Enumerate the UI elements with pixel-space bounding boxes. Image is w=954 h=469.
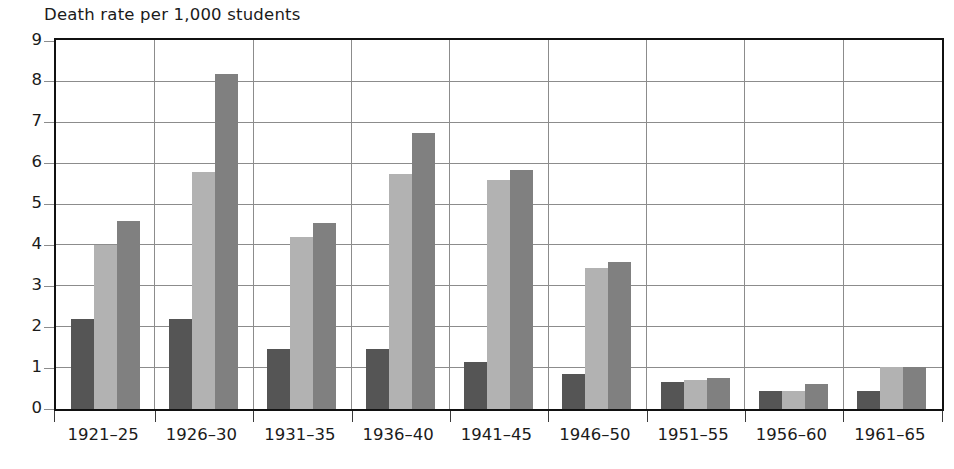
gridline-horizontal: [56, 163, 942, 164]
bar: [389, 174, 412, 409]
y-tick-mark: [44, 41, 54, 42]
y-tick-label: 7: [8, 113, 42, 130]
bar: [562, 374, 585, 409]
y-tick-mark: [44, 204, 54, 205]
x-tick-mark: [647, 411, 648, 422]
gridline-vertical: [548, 40, 549, 409]
x-tick-label: 1931–35: [251, 425, 349, 444]
bar: [510, 170, 533, 409]
x-tick-mark: [352, 411, 353, 422]
y-tick-mark: [44, 81, 54, 82]
bar: [684, 380, 707, 409]
bar: [366, 349, 389, 410]
y-tick-label: 0: [8, 400, 42, 417]
y-tick-label: 2: [8, 318, 42, 335]
x-tick-label: 1951–55: [644, 425, 742, 444]
bar: [169, 319, 192, 409]
y-tick-mark: [44, 245, 54, 246]
y-tick-label: 9: [8, 32, 42, 49]
chart-title: Death rate per 1,000 students: [44, 5, 301, 24]
gridline-vertical: [253, 40, 254, 409]
gridline-vertical: [449, 40, 450, 409]
y-tick-label: 3: [8, 277, 42, 294]
bar: [782, 391, 805, 409]
bar: [290, 237, 313, 409]
x-tick-mark: [253, 411, 254, 422]
bar: [192, 172, 215, 409]
gridline-vertical: [154, 40, 155, 409]
x-tick-label: 1941–45: [447, 425, 545, 444]
x-tick-label: 1961–65: [841, 425, 939, 444]
y-tick-mark: [44, 122, 54, 123]
x-tick-mark: [843, 411, 844, 422]
y-tick-mark: [44, 163, 54, 164]
bar: [464, 362, 487, 409]
bar: [94, 245, 117, 409]
bar: [759, 391, 782, 409]
bar: [805, 384, 828, 409]
bar: [903, 367, 926, 409]
x-tick-mark: [155, 411, 156, 422]
bar: [857, 391, 880, 409]
bar: [585, 268, 608, 409]
x-tick-label: 1956–60: [742, 425, 840, 444]
bar: [487, 180, 510, 409]
bar: [661, 382, 684, 409]
x-axis-ticks: [54, 411, 944, 423]
x-tick-label: 1921–25: [54, 425, 152, 444]
bar: [608, 262, 631, 409]
bar: [313, 223, 336, 409]
x-axis-labels: 1921–251926–301931–351936–401941–451946–…: [54, 425, 944, 455]
plot-area: [54, 38, 944, 411]
x-tick-label: 1926–30: [152, 425, 250, 444]
x-tick-label: 1936–40: [349, 425, 447, 444]
gridline-vertical: [646, 40, 647, 409]
x-tick-mark: [450, 411, 451, 422]
x-tick-mark: [54, 411, 55, 422]
bar: [71, 319, 94, 409]
bar-chart-figure: Death rate per 1,000 students 0123456789…: [0, 0, 954, 469]
y-tick-label: 4: [8, 236, 42, 253]
gridline-vertical: [744, 40, 745, 409]
x-tick-label: 1946–50: [546, 425, 644, 444]
gridline-vertical: [843, 40, 844, 409]
bar: [880, 367, 903, 409]
x-tick-mark: [745, 411, 746, 422]
y-tick-label: 6: [8, 154, 42, 171]
y-tick-label: 8: [8, 72, 42, 89]
gridline-horizontal: [56, 81, 942, 82]
bar: [412, 133, 435, 409]
x-tick-mark: [942, 411, 943, 422]
y-tick-mark: [44, 368, 54, 369]
x-tick-mark: [548, 411, 549, 422]
y-tick-label: 5: [8, 195, 42, 212]
bar: [215, 74, 238, 409]
gridline-vertical: [351, 40, 352, 409]
bar: [267, 349, 290, 410]
y-tick-label: 1: [8, 359, 42, 376]
y-tick-mark: [44, 286, 54, 287]
y-tick-mark: [44, 327, 54, 328]
bar: [117, 221, 140, 409]
gridline-horizontal: [56, 122, 942, 123]
bar: [707, 378, 730, 409]
y-tick-mark: [44, 409, 54, 410]
